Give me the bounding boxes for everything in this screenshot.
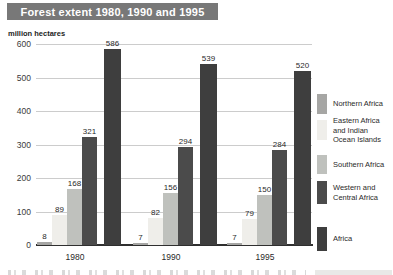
gridline-400 (36, 111, 312, 112)
y-tick-label: 300 (4, 140, 31, 150)
bar-value-label: 586 (95, 39, 130, 48)
cutoff-source-text (8, 270, 306, 275)
legend-label-line: Ocean Islands (333, 135, 381, 145)
forest-extent-bar-chart: Forest extent 1980, 1990 and 1995 millio… (0, 0, 393, 275)
y-tick-label: 100 (4, 207, 31, 217)
legend-swatch (317, 120, 327, 140)
legend-label: Northern Africa (333, 99, 383, 109)
bar-value-label: 539 (191, 54, 226, 63)
bar-western-and-central-africa-1980 (82, 137, 97, 245)
y-tick-label: 600 (4, 39, 31, 49)
legend-label-line: Southern Africa (333, 160, 384, 170)
bar-africa-1995 (294, 71, 311, 245)
legend-label-line: and Indian (333, 126, 381, 136)
bar-africa-1990 (200, 64, 217, 245)
bar-eastern-africa-and-indian-ocean-islands-1990 (148, 218, 163, 245)
legend-label-line: Western and (333, 183, 378, 193)
y-tick-label: 400 (4, 106, 31, 116)
legend-label-line: Central Africa (333, 193, 378, 203)
bar-western-and-central-africa-1990 (178, 147, 193, 245)
legend-label: Southern Africa (333, 160, 384, 170)
x-tick-label: 1990 (141, 252, 201, 262)
y-tick-label: 500 (4, 73, 31, 83)
bar-northern-africa-1980 (37, 242, 52, 245)
bar-southern-africa-1980 (67, 189, 82, 245)
bar-southern-africa-1995 (257, 195, 272, 245)
legend-label-line: Eastern Africa (333, 116, 381, 126)
legend-swatch (317, 155, 327, 174)
legend-label-line: Northern Africa (333, 99, 383, 109)
legend-item-southern-africa: Southern Africa (317, 155, 384, 174)
bar-eastern-africa-and-indian-ocean-islands-1995 (242, 219, 257, 245)
bar-eastern-africa-and-indian-ocean-islands-1980 (52, 215, 67, 245)
legend-swatch (317, 181, 327, 204)
y-tick-label: 200 (4, 173, 31, 183)
bar-value-label: 520 (285, 61, 320, 70)
legend-label: Africa (333, 234, 352, 244)
bar-value-label: 321 (73, 127, 106, 136)
bar-southern-africa-1990 (163, 193, 178, 245)
gridline-500 (36, 78, 312, 79)
legend-item-western-and-central-africa: Western andCentral Africa (317, 181, 378, 204)
legend-label-line: Africa (333, 234, 352, 244)
legend-item-eastern-africa-and-indian-ocean-islands: Eastern Africaand IndianOcean Islands (317, 116, 381, 145)
legend-item-africa: Africa (317, 227, 352, 251)
y-tick-label: 0 (4, 240, 31, 250)
bar-western-and-central-africa-1995 (272, 150, 287, 245)
legend-swatch (317, 94, 327, 114)
gridline-600 (36, 44, 312, 45)
x-tick-label: 1995 (235, 252, 295, 262)
chart-title: Forest extent 1980, 1990 and 1995 (21, 6, 205, 18)
bar-value-label: 284 (263, 140, 296, 149)
y-axis-unit-label: million hectares (8, 29, 65, 38)
chart-title-banner: Forest extent 1980, 1990 and 1995 (7, 3, 218, 20)
legend-item-northern-africa: Northern Africa (317, 94, 383, 114)
bar-northern-africa-1990 (133, 243, 148, 245)
x-tick-label: 1980 (45, 252, 105, 262)
legend-label: Eastern Africaand IndianOcean Islands (333, 116, 381, 145)
cutoff-next-section-banner (315, 270, 392, 275)
legend-label: Western andCentral Africa (333, 183, 378, 202)
bar-value-label: 294 (169, 137, 202, 146)
legend-swatch (317, 227, 327, 251)
bar-northern-africa-1995 (227, 243, 242, 245)
bar-africa-1980 (104, 49, 121, 245)
